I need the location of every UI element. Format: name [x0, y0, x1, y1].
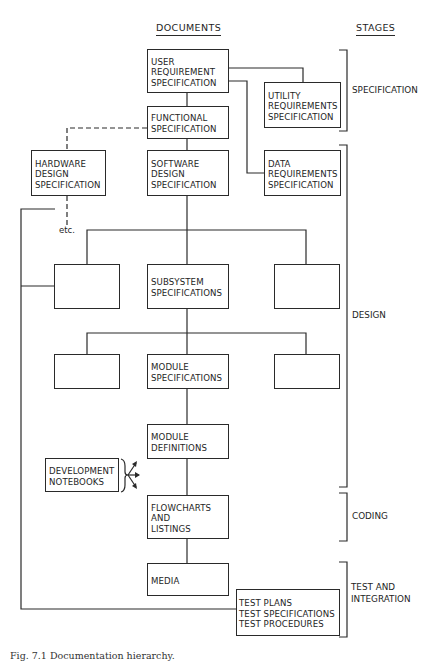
box-label: SUBSYSTEM SPECIFICATIONS: [151, 277, 226, 298]
figure-caption: Fig. 7.1 Documentation hierarchy.: [10, 650, 175, 661]
media-box: MEDIA: [147, 563, 229, 596]
box-label: USER REQUIREMENT SPECIFICATION: [151, 57, 226, 89]
etc-label: etc.: [59, 225, 75, 235]
module-specifications-box: MODULE SPECIFICATIONS: [147, 354, 229, 389]
flowcharts-and-listings-box: FLOWCHARTS AND LISTINGS: [147, 495, 229, 539]
development-notebooks-box: DEVELOPMENT NOTEBOOKS: [45, 458, 119, 492]
subsystem-specifications-box: SUBSYSTEM SPECIFICATIONS: [147, 264, 229, 309]
box-label: MODULE DEFINITIONS: [151, 432, 226, 453]
box-label: SOFTWARE DESIGN SPECIFICATION: [151, 159, 226, 191]
box-label: DEVELOPMENT NOTEBOOKS: [49, 466, 116, 487]
box-label: UTILITY REQUIREMENTS SPECIFICATION: [268, 91, 338, 123]
functional-specification-box: FUNCTIONAL SPECIFICATION: [147, 106, 229, 139]
stage-specification: SPECIFICATION: [352, 84, 418, 96]
box-label: TEST PLANS TEST SPECIFICATIONS TEST PROC…: [239, 598, 337, 630]
test-plans-specifications-procedures-box: TEST PLANS TEST SPECIFICATIONS TEST PROC…: [236, 589, 340, 636]
box-label: MEDIA: [151, 576, 226, 587]
stage-coding: CODING: [352, 510, 388, 522]
module-right-box: [274, 354, 340, 389]
box-label: FUNCTIONAL SPECIFICATION: [151, 113, 226, 134]
user-requirement-specification-box: USER REQUIREMENT SPECIFICATION: [147, 49, 229, 93]
utility-requirements-specification-box: UTILITY REQUIREMENTS SPECIFICATION: [264, 82, 341, 128]
software-design-specification-box: SOFTWARE DESIGN SPECIFICATION: [147, 150, 229, 196]
box-label: FLOWCHARTS AND LISTINGS: [151, 503, 226, 535]
stage-test-and-integration: TEST AND INTEGRATION: [351, 581, 411, 605]
hardware-design-specification-box: HARDWARE DESIGN SPECIFICATION: [31, 150, 106, 196]
box-label: MODULE SPECIFICATIONS: [151, 362, 226, 383]
module-left-box: [54, 354, 120, 389]
module-definitions-box: MODULE DEFINITIONS: [147, 424, 229, 459]
stages-header: STAGES: [356, 22, 395, 36]
subsystem-right-box: [274, 264, 340, 309]
stage-design: DESIGN: [352, 309, 386, 321]
data-requirements-specification-box: DATA REQUIREMENTS SPECIFICATION: [264, 150, 341, 196]
subsystem-left-box: [54, 264, 120, 309]
documents-header: DOCUMENTS: [156, 22, 221, 36]
box-label: DATA REQUIREMENTS SPECIFICATION: [268, 159, 338, 191]
box-label: HARDWARE DESIGN SPECIFICATION: [35, 159, 103, 191]
